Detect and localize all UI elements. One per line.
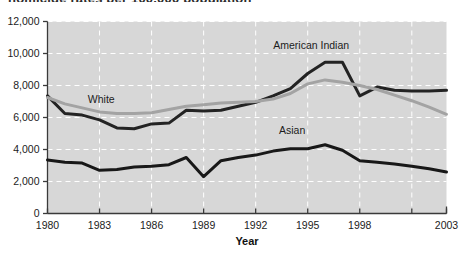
chart-figure: homicide rates per 100,000 population 02… [0, 0, 465, 255]
x-tick-label: 1995 [283, 219, 333, 231]
y-tick-label: 2,000 [13, 175, 39, 187]
x-tick-label: 1998 [335, 219, 385, 231]
y-tick-label: 8,000 [13, 79, 39, 91]
y-tick-label: 10,000 [7, 47, 39, 59]
x-tick-label: 1980 [23, 219, 73, 231]
x-tick-label: 1983 [75, 219, 125, 231]
y-tick-label: 6,000 [13, 111, 39, 123]
x-tick-label: 1992 [231, 219, 281, 231]
series-label-asian: Asian [279, 124, 305, 136]
y-tick-label: 4,000 [13, 143, 39, 155]
series-label-american-indian: American Indian [273, 39, 349, 51]
x-tick-label: 1986 [127, 219, 177, 231]
y-tick-label: 12,000 [7, 15, 39, 27]
x-axis-title: Year [207, 235, 287, 247]
x-tick-label: 1989 [179, 219, 229, 231]
series-label-white: White [88, 93, 115, 105]
line-chart-canvas [0, 0, 465, 255]
x-tick-label: 2003 [422, 219, 465, 231]
y-tick-label: 0 [34, 207, 40, 219]
